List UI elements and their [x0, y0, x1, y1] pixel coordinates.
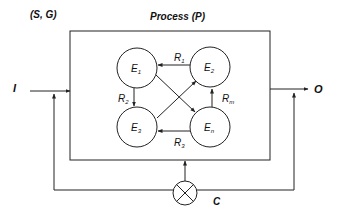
node-e1: E1	[117, 48, 157, 88]
label-r2: R2	[118, 93, 129, 105]
label-r1: R1	[174, 52, 185, 64]
svg-text:E3: E3	[131, 122, 142, 134]
label-rm: Rm	[222, 93, 234, 105]
input-label: I	[13, 82, 17, 94]
label-r3: R3	[174, 137, 185, 149]
control-label: C	[213, 196, 221, 207]
summing-junction-icon	[173, 181, 197, 205]
svg-text:En: En	[204, 122, 215, 134]
node-e3: E3	[117, 107, 157, 147]
edge-e3-e2	[157, 81, 196, 118]
system-label: (S, G)	[30, 9, 57, 20]
svg-text:E2: E2	[204, 62, 215, 74]
process-diagram: (S, G) Process (P) I O C E1 E2 E3 En R1 …	[0, 0, 338, 215]
node-en: En	[190, 107, 230, 147]
svg-text:E1: E1	[131, 63, 141, 75]
process-title: Process (P)	[150, 11, 206, 22]
output-label: O	[314, 83, 323, 95]
process-box	[70, 31, 270, 160]
edge-e1-en	[156, 75, 195, 112]
